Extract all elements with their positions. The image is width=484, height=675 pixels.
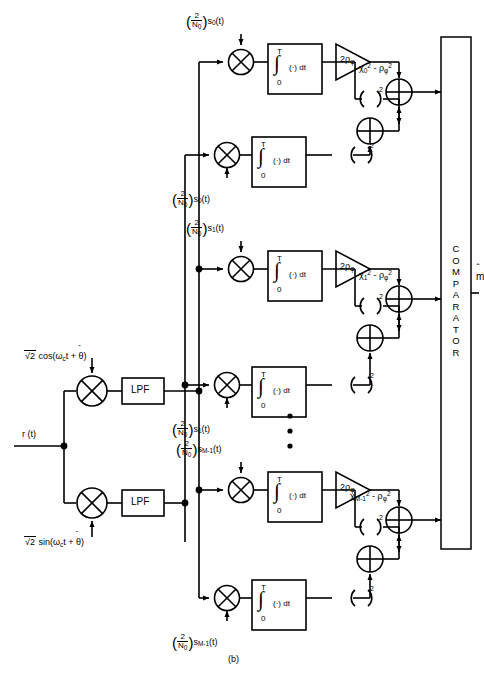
comparator-letter: O [452, 335, 459, 346]
ellipsis-dots [287, 413, 292, 448]
b1u-int-lower-limit: 0 [277, 285, 281, 294]
figure-caption: (b) [228, 654, 239, 664]
b0l-int-lower-limit: 0 [261, 171, 265, 180]
dot-b1l [182, 382, 189, 389]
bM1u-int-symbol: ∫ [274, 481, 280, 502]
dot-bus-quad-feed [182, 500, 189, 507]
comparator-letter: T [453, 324, 459, 335]
b1u-ref-label: (2N0)s1(t) [186, 219, 224, 237]
bM1l-int-body: (·) dt [273, 599, 290, 608]
bM1u-int-body: (·) dt [289, 491, 306, 500]
bM1u-ref-label: (2N0)sM-1(t) [176, 440, 222, 458]
b1l-int-symbol: ∫ [258, 376, 264, 397]
b0l-int-body: (·) dt [273, 156, 290, 165]
bM1l-int-symbol: ∫ [258, 589, 264, 610]
b0u-sq-exp: 2 [379, 86, 383, 93]
dot-b1u [196, 266, 203, 273]
comparator-letter: O [452, 255, 459, 266]
b0u-int-lower-limit: 0 [277, 78, 281, 87]
b1u-int-symbol: ∫ [274, 260, 280, 281]
comparator-letter: A [453, 289, 459, 300]
bM1-output-label: χM-12 - ρφ2 [350, 491, 391, 503]
b1u-sq-lparen [360, 298, 364, 314]
b0u-sq-rparen [377, 91, 381, 107]
b0u-int-body: (·) dt [289, 63, 306, 72]
comparator-label: C O M P A R A T O R [445, 243, 467, 358]
b1u-sq-rparen [377, 298, 381, 314]
b1-output-label: χ12 - ρφ2 [359, 270, 392, 282]
b0u-sq-lparen [360, 91, 364, 107]
b0u-ref-label: (2N0)s0(t) [186, 12, 224, 30]
bM1u-int-lower-limit: 0 [277, 506, 281, 515]
lpf-lower-label: LPF [131, 497, 149, 508]
b0l-int-symbol: ∫ [258, 146, 264, 167]
bM1u-sq-exp: 2 [379, 514, 383, 521]
b1l-int-lower-limit: 0 [261, 401, 265, 410]
b1l-sq-exp: 2 [370, 372, 374, 379]
comparator-letter: P [453, 278, 459, 289]
dot-bus-inphase-feed [196, 388, 203, 395]
b1u-gain-label: 2ρφ [340, 262, 354, 273]
comparator-letter: A [453, 312, 459, 323]
b0-output-label: χ02 - ρφ2 [359, 63, 392, 75]
comparator-letter: R [453, 301, 460, 312]
b1u-sq-exp: 2 [379, 293, 383, 300]
dot-input-split [61, 443, 68, 450]
b0u-gain-label: 2ρφ [340, 55, 354, 66]
bM1l-int-lower-limit: 0 [261, 614, 265, 623]
lpf-upper-label: LPF [131, 385, 149, 396]
sin-carrier-label: √2 sin(ωct + θ̂) [24, 538, 84, 549]
bM1u-sq-rparen [377, 519, 381, 535]
dot-bM1u [196, 487, 203, 494]
b0l-ref-label: (2N0)s0(t) [172, 190, 210, 208]
b1u-int-body: (·) dt [289, 270, 306, 279]
comparator-letter: R [453, 347, 460, 358]
comparator-letter: C [453, 243, 460, 254]
bM1l-sq-exp: 2 [370, 585, 374, 592]
comparator-letter: M [452, 266, 460, 277]
cos-carrier-label: √2 cos(ωct + θ̂) [24, 352, 87, 363]
b0l-sq-exp: 2 [370, 142, 374, 149]
bM1l-ref-label: (2N0)sM-1(t) [172, 633, 218, 651]
b0u-int-symbol: ∫ [274, 53, 280, 74]
b1l-int-body: (·) dt [273, 386, 290, 395]
b1l-ref-label: (2N0)s1(t) [172, 420, 210, 438]
comparator-output-label: m̂ [476, 272, 484, 283]
input-signal-label: r (t) [22, 430, 36, 439]
bM1u-sq-lparen [360, 519, 364, 535]
